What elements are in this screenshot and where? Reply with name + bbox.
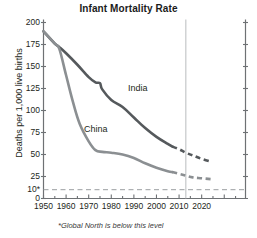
infant-mortality-chart: Infant Mortality Rate Deaths per 1,000 l…: [0, 0, 257, 238]
plot-area: [0, 0, 257, 238]
series-projection-india: [172, 147, 210, 162]
series-line-india: [44, 31, 173, 146]
series-line-china: [44, 31, 173, 172]
series-label-china: China: [84, 124, 108, 134]
chart-footnote: *Global North is below this level: [58, 221, 163, 230]
series-label-india: India: [128, 83, 148, 93]
series-projection-china: [172, 172, 210, 179]
